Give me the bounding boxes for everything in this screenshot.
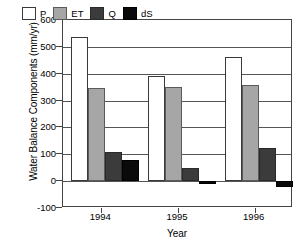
legend-swatch-dS: [123, 7, 137, 20]
x-tick-label-1994: 1994: [65, 211, 135, 222]
bar-1995-Q: [182, 168, 199, 181]
x-tick-label-1996: 1996: [219, 211, 289, 222]
legend-label-ET: ET: [71, 8, 83, 19]
legend-item-ET[interactable]: ET: [53, 7, 83, 20]
legend-item-dS[interactable]: dS: [123, 7, 153, 20]
bar-1995-dS: [199, 181, 216, 184]
x-tick-label-1995: 1995: [142, 211, 212, 222]
y-tick-label-200: 200: [6, 121, 56, 132]
y-tick-label-400: 400: [6, 67, 56, 78]
bar-1994-dS: [122, 160, 139, 181]
bar-1996-P: [225, 57, 242, 181]
y-tick-label--100: -100: [6, 202, 56, 213]
y-tick-label-300: 300: [6, 94, 56, 105]
bar-1995-ET: [165, 87, 182, 182]
gridline-0: [63, 181, 291, 182]
y-tick-label-100: 100: [6, 148, 56, 159]
legend-swatch-ET: [53, 7, 67, 20]
legend-item-Q[interactable]: Q: [90, 7, 115, 20]
legend-label-dS: dS: [141, 8, 153, 19]
bar-1996-Q: [259, 148, 276, 182]
legend-swatch-Q: [90, 7, 104, 20]
bar-1995-P: [148, 76, 165, 181]
bar-1994-ET: [88, 88, 105, 181]
water-balance-bar-chart: Water Balance Components (mm/yr) -100010…: [0, 0, 303, 252]
y-tick-label-500: 500: [6, 40, 56, 51]
y-tick--100: [56, 207, 62, 208]
bar-1994-Q: [105, 152, 122, 182]
legend-label-P: P: [40, 8, 46, 19]
gridline-400: [63, 74, 291, 75]
gridline-500: [63, 47, 291, 48]
legend-label-Q: Q: [108, 8, 115, 19]
bar-1994-P: [71, 37, 88, 181]
chart-legend: PETQdS: [22, 3, 153, 23]
x-axis-title: Year: [62, 228, 292, 239]
bar-1996-ET: [242, 85, 259, 181]
plot-area: [62, 19, 292, 207]
y-tick-label-0: 0: [6, 175, 56, 186]
bar-1996-dS: [276, 181, 293, 186]
legend-swatch-P: [22, 7, 36, 20]
legend-item-P[interactable]: P: [22, 7, 46, 20]
